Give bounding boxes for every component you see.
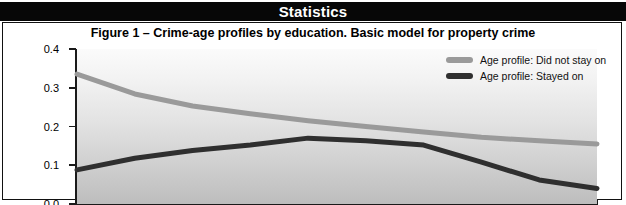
- y-tick: [69, 203, 76, 205]
- legend-label-did-not-stay-on: Age profile: Did not stay on: [480, 54, 606, 66]
- header-bar: Statistics: [0, 2, 626, 21]
- figure-title: Figure 1 – Crime-age profiles by educati…: [3, 26, 623, 40]
- legend-label-stayed-on: Age profile: Stayed on: [480, 70, 583, 82]
- figure-screenshot: Statistics Figure 1 – Crime-age profiles…: [0, 0, 626, 205]
- legend-swatch-stayed-on: [446, 73, 473, 79]
- y-tick-label: 0.2: [44, 121, 59, 133]
- series-line-stayed-on: [77, 138, 597, 188]
- y-tick-label: 0.0: [44, 198, 59, 205]
- header-title: Statistics: [0, 2, 626, 21]
- y-tick: [69, 48, 76, 50]
- legend-item-did-not-stay-on: Age profile: Did not stay on: [446, 53, 606, 66]
- chart-legend: Age profile: Did not stay on Age profile…: [446, 53, 606, 85]
- y-tick: [69, 164, 76, 166]
- legend-item-stayed-on: Age profile: Stayed on: [446, 69, 606, 82]
- y-tick-label: 0.3: [44, 82, 59, 94]
- y-tick: [69, 87, 76, 89]
- legend-swatch-did-not-stay-on: [446, 57, 473, 63]
- y-tick-label: 0.1: [44, 159, 59, 171]
- figure-frame: Figure 1 – Crime-age profiles by educati…: [2, 22, 622, 200]
- y-tick: [69, 126, 76, 128]
- y-tick-label: 0.4: [44, 43, 59, 55]
